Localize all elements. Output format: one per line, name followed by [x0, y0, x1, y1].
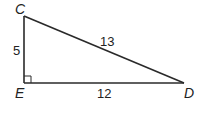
side-label-ce: 5 [13, 43, 20, 58]
triangle-diagram: C E D 5 13 12 [0, 0, 199, 116]
side-label-ed: 12 [97, 86, 111, 101]
side-label-cd: 13 [100, 34, 114, 49]
right-angle-marker [24, 76, 31, 83]
vertex-label-c: C [15, 1, 26, 17]
vertex-label-d: D [184, 85, 194, 101]
side-cd-hypotenuse [24, 16, 184, 83]
vertex-label-e: E [15, 85, 25, 101]
